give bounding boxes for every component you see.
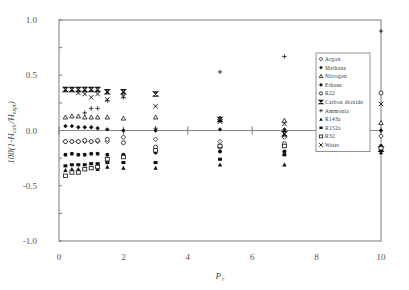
x-tick-label: 10	[377, 252, 387, 262]
legend-label: Water	[325, 142, 340, 148]
x-axis-title: Pr	[215, 271, 226, 282]
y-axis-title: 100(1-Hcalc/Hexpt)	[6, 101, 17, 164]
legend-item: Carbon dioxide	[319, 99, 363, 105]
scatter-chart: 1.00.50.0-0.5-1.0 0246810 ArgonMethaneNi…	[0, 0, 409, 290]
x-tick-label: 2	[121, 252, 126, 262]
legend-label: R143a	[325, 116, 341, 122]
x-tick-label: 8	[314, 252, 319, 262]
legend-label: Nitrogen	[325, 73, 347, 79]
legend-label: Ammonia	[325, 108, 349, 114]
legend-label: Carbon dioxide	[325, 99, 364, 105]
y-tick-label: 0.0	[26, 126, 38, 136]
x-tick-label: 6	[250, 252, 255, 262]
legend-label: Methane	[325, 65, 347, 71]
legend-label: R32	[325, 133, 335, 139]
x-tick-label: 0	[57, 252, 62, 262]
series-r143a	[63, 150, 383, 172]
y-axis: 1.00.50.0-0.5-1.0	[23, 15, 62, 246]
x-tick-label: 4	[186, 252, 191, 262]
axis-titles: Pr100(1-Hcalc/Hexpt)	[6, 101, 225, 282]
y-tick-label: 1.0	[26, 15, 38, 25]
y-tick-label: -0.5	[23, 181, 38, 191]
legend-label: R152a	[325, 125, 341, 131]
legend: ArgonMethaneNitrogenEthaneR22Carbon diox…	[316, 53, 370, 152]
legend-label: R22	[325, 90, 335, 96]
legend-label: Ethane	[325, 82, 342, 88]
y-tick-label: 0.5	[26, 70, 38, 80]
legend-label: Argon	[325, 56, 340, 62]
y-tick-label: -1.0	[23, 236, 38, 246]
